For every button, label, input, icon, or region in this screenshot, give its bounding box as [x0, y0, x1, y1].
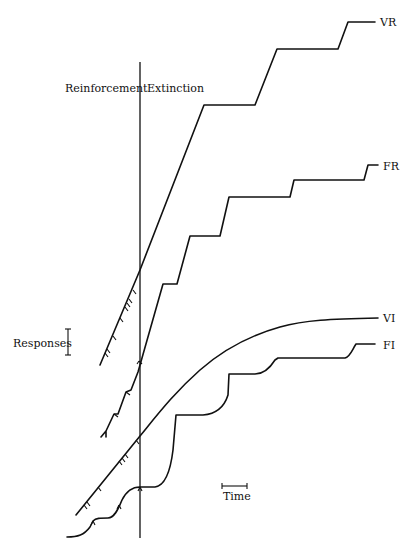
fr-reinforcement-marks [114, 361, 142, 417]
time-scale-label: Time [223, 490, 251, 503]
vr-reinforcement-marks [105, 290, 136, 357]
time-scale-bar [222, 483, 247, 489]
cumulative-record-chart: Reinforcement Extinction VR FR VI FI Res… [0, 0, 408, 547]
fr-label: FR [383, 160, 400, 173]
extinction-label: Extinction [147, 82, 204, 95]
reinforcement-label: Reinforcement [65, 82, 148, 95]
fi-curve [67, 344, 375, 537]
fi-reinforcement-marks [91, 487, 142, 525]
responses-scale-label: Responses [13, 337, 72, 350]
vi-label: VI [382, 312, 395, 325]
fi-label: FI [383, 339, 395, 352]
vi-reinforcement-marks [84, 440, 139, 509]
fr-curve [101, 165, 378, 437]
vr-curve [100, 22, 375, 365]
vr-label: VR [379, 16, 397, 29]
